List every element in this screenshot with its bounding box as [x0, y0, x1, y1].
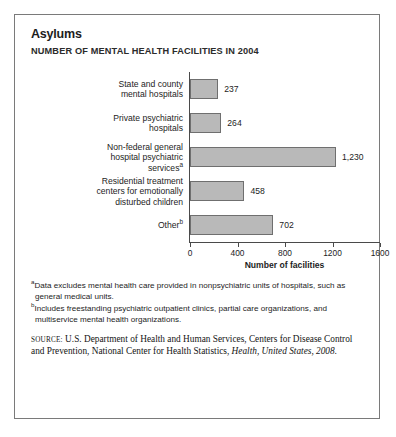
x-tick: [190, 243, 191, 247]
x-tick: [285, 243, 286, 247]
category-label: Private psychiatrichospitals: [35, 113, 183, 134]
bar-value-label: 237: [224, 84, 238, 94]
footnotes: aData excludes mental health care provid…: [31, 280, 361, 325]
footnote-b-text: Includes freestanding psychiatric outpat…: [34, 304, 326, 324]
x-tick: [333, 243, 334, 247]
bar-value-label: 458: [250, 186, 264, 196]
x-tick-label: 1600: [371, 248, 390, 258]
bar-value-label: 1,230: [342, 152, 364, 162]
bar-group: 702: [190, 215, 294, 235]
category-footnote-marker: b: [179, 218, 183, 225]
bar: [190, 215, 273, 235]
plot-area: State and countymental hospitals237Priva…: [31, 66, 365, 242]
footnote-b: bIncludes freestanding psychiatric outpa…: [31, 303, 361, 325]
x-tick: [238, 243, 239, 247]
bar-group: 1,230: [190, 147, 364, 167]
x-tick-label: 800: [278, 248, 292, 258]
source-publication: Health, United States, 2008.: [232, 346, 337, 356]
bar-group: 237: [190, 79, 238, 99]
figure-content: Asylums NUMBER OF MENTAL HEALTH FACILITI…: [31, 27, 367, 412]
bar: [190, 181, 244, 201]
source-note: source: U.S. Department of Health and Hu…: [31, 334, 361, 358]
x-tick-label: 0: [188, 248, 193, 258]
bar-value-label: 702: [279, 220, 293, 230]
bar-row: State and countymental hospitals237: [31, 72, 365, 106]
x-axis-title: Number of facilities: [189, 260, 380, 270]
bar-value-label: 264: [227, 118, 241, 128]
bar-row: Residential treatmentcenters for emotion…: [31, 174, 365, 208]
bar: [190, 147, 336, 167]
source-label: source:: [31, 336, 63, 344]
page-title: Asylums: [31, 27, 367, 41]
category-footnote-marker: a: [179, 160, 183, 167]
bar: [190, 79, 218, 99]
x-tick: [380, 243, 381, 247]
category-label: Residential treatmentcenters for emotion…: [35, 176, 183, 207]
bar-row: Otherb702: [31, 208, 365, 242]
footnote-a: aData excludes mental health care provid…: [31, 280, 361, 302]
bar: [190, 113, 221, 133]
footnote-a-text: Data excludes mental health care provide…: [34, 281, 345, 301]
bar-row: Private psychiatrichospitals264: [31, 106, 365, 140]
category-label: Otherb: [35, 220, 183, 230]
category-label: Non-federal generalhospital psychiatrics…: [35, 142, 183, 173]
x-tick-label: 400: [231, 248, 245, 258]
figure-frame: Asylums NUMBER OF MENTAL HEALTH FACILITI…: [14, 14, 380, 419]
x-tick-label: 1200: [323, 248, 342, 258]
chart-subtitle: NUMBER OF MENTAL HEALTH FACILITIES IN 20…: [31, 46, 367, 56]
bar-row: Non-federal generalhospital psychiatrics…: [31, 140, 365, 174]
bar-group: 264: [190, 113, 242, 133]
bar-group: 458: [190, 181, 265, 201]
bar-chart: State and countymental hospitals237Priva…: [31, 66, 365, 272]
category-label: State and countymental hospitals: [35, 79, 183, 100]
